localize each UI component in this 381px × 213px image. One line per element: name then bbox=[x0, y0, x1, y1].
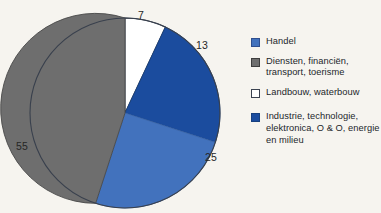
legend-swatch-handel bbox=[251, 38, 260, 47]
legend-swatch-industrie bbox=[251, 113, 260, 122]
pie-value-label-industrie-technologie: 13 bbox=[196, 40, 208, 51]
chart-legend: Handel Diensten, financiën, transport, t… bbox=[251, 36, 381, 154]
legend-swatch-landbouw bbox=[251, 89, 260, 98]
legend-label-industrie-technologie: Industrie, technologie, elektronica, O &… bbox=[266, 111, 381, 146]
pie-chart-plot: 7 13 25 55 bbox=[0, 0, 244, 213]
legend-item-industrie-technologie[interactable]: Industrie, technologie, elektronica, O &… bbox=[251, 111, 381, 146]
legend-item-diensten-financien[interactable]: Diensten, financiën, transport, toerisme bbox=[251, 56, 381, 79]
legend-swatch-diensten bbox=[251, 58, 260, 67]
legend-item-handel[interactable]: Handel bbox=[251, 36, 381, 48]
legend-label-diensten-financien: Diensten, financiën, transport, toerisme bbox=[266, 56, 381, 79]
legend-label-handel: Handel bbox=[266, 36, 296, 48]
pie-chart-figure: 7 13 25 55 Handel Diensten, financiën, t… bbox=[0, 0, 381, 213]
pie-svg bbox=[0, 0, 244, 213]
legend-label-landbouw-waterbouw: Landbouw, waterbouw bbox=[266, 87, 359, 99]
legend-item-landbouw-waterbouw[interactable]: Landbouw, waterbouw bbox=[251, 87, 381, 99]
pie-value-label-landbouw-waterbouw: 7 bbox=[138, 10, 144, 21]
pie-value-label-diensten-financien: 55 bbox=[16, 141, 28, 152]
pie-value-label-handel: 25 bbox=[205, 152, 217, 163]
